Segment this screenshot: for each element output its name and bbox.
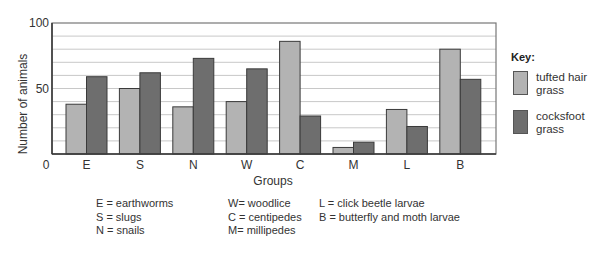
abbreviation-w: W= woodlice [228,197,302,211]
bar-L-tufted [386,109,407,154]
x-tick-M: M [349,158,359,172]
gridlines [52,36,496,141]
legend-item-cocksfoot-grass: cocksfootgrass [513,110,596,136]
bar-B-tufted [440,49,461,154]
x-tick-C: C [296,158,305,172]
bar-C-cocksfoot [300,116,321,154]
bar-L-cocksfoot [407,126,428,154]
x-tick-B: B [456,158,464,172]
bar-M-cocksfoot [354,142,375,154]
abbreviation-n: N = snails [96,224,173,238]
bar-S-tufted [119,89,139,155]
bar-W-tufted [226,102,247,154]
x-tick-L: L [404,158,411,172]
y-axis-title: Number of animals [16,54,30,155]
bar-E-cocksfoot [87,77,108,154]
bars [66,41,481,154]
abbreviation-column-2: W= woodlice C = centipedes M= millipedes [228,197,302,238]
bar-M-tufted [333,147,354,154]
abbreviation-m: M= millipedes [228,224,302,238]
x-tick-E: E [82,158,90,172]
bar-C-tufted [280,41,301,154]
x-tick-N: N [189,158,198,172]
x-axis-title: Groups [253,174,292,188]
legend-swatch-tufted [513,71,528,95]
x-tick-W: W [241,158,253,172]
abbreviation-s: S = slugs [96,211,173,225]
bar-N-cocksfoot [193,58,214,154]
legend-item-tufted-hair-grass: tufted hairgrass [513,71,596,97]
y-tick-100: 100 [29,16,49,30]
legend-label-cocksfoot: cocksfootgrass [536,110,596,136]
abbreviation-e: E = earthworms [96,197,173,211]
abbreviation-c: C = centipedes [228,211,302,225]
bar-B-cocksfoot [460,79,481,154]
abbreviation-b: B = butterfly and moth larvae [319,211,460,225]
y-tick-0: 0 [43,158,50,172]
legend-label-tufted: tufted hairgrass [536,71,596,97]
bar-S-cocksfoot [140,73,161,154]
abbreviation-l: L = click beetle larvae [319,197,460,211]
x-tick-S: S [136,158,144,172]
abbreviation-column-1: E = earthworms S = slugs N = snails [96,197,173,238]
legend-swatch-cocksfoot [513,110,528,134]
bar-N-tufted [173,107,194,154]
legend-title: Key: [511,51,535,63]
bar-E-tufted [66,104,87,154]
bar-W-cocksfoot [247,69,268,154]
y-tick-50: 50 [36,82,50,96]
abbreviation-column-3: L = click beetle larvae B = butterfly an… [319,197,460,224]
